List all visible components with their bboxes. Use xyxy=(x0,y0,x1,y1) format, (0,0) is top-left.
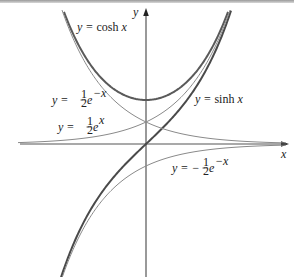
y-axis-label: y xyxy=(132,5,139,19)
hyperbolic-functions-plot: x y y = cosh x y = sinh x y = 1 2 e −x y… xyxy=(0,0,294,277)
svg-text:−x: −x xyxy=(215,154,229,168)
svg-text:y = −: y = − xyxy=(171,161,200,175)
svg-text:−x: −x xyxy=(93,86,107,100)
label-neg-half-e-neg-x: y = − 1 2 e −x xyxy=(171,154,229,178)
x-axis-label: x xyxy=(280,147,287,161)
axes xyxy=(20,8,289,277)
svg-text:x: x xyxy=(98,113,105,127)
x-axis-arrow-icon xyxy=(281,141,289,147)
svg-text:y =: y = xyxy=(57,120,74,134)
y-axis-arrow-icon xyxy=(143,8,149,16)
label-cosh: y = cosh x xyxy=(76,20,127,34)
label-half-e-neg-x: y = 1 2 e −x xyxy=(51,86,107,110)
svg-text:y =: y = xyxy=(51,93,68,107)
label-half-e-x: y = 1 2 e x xyxy=(57,113,105,137)
label-sinh: y = sinh x xyxy=(194,92,243,106)
